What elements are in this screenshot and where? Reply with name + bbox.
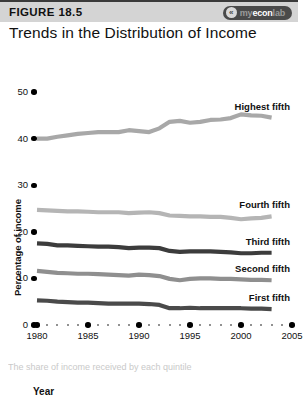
- series-label-fourth-fifth: Fourth fifth: [239, 199, 290, 210]
- series-label-second-fifth: Second fifth: [235, 263, 290, 274]
- series-line-fourth-fifth: [37, 210, 272, 219]
- figure-number: FIGURE 18.5: [9, 6, 82, 18]
- myeconlab-badge[interactable]: « myeconlab: [223, 6, 292, 20]
- series-label-third-fifth: Third fifth: [246, 236, 290, 247]
- plot-area: 01020304050198019851990199520002005Highe…: [0, 46, 298, 346]
- figure-title: Trends in the Distribution of Income: [9, 24, 257, 42]
- myeconlab-label: myeconlab: [240, 8, 285, 18]
- brand-main: econ: [252, 8, 272, 18]
- series-line-first-fifth: [37, 300, 272, 309]
- series-line-third-fifth: [37, 243, 272, 253]
- bottom-caption: The share of income received by each qui…: [8, 362, 292, 372]
- chart-container: Percentage of income Year 01020304050198…: [0, 46, 298, 346]
- series-label-highest-fifth: Highest fifth: [235, 101, 290, 112]
- series-line-highest-fifth: [37, 114, 272, 138]
- myeconlab-logo-icon: «: [226, 7, 237, 18]
- brand-prefix: my: [240, 8, 253, 18]
- figure-header-band: FIGURE 18.5 « myeconlab: [0, 0, 298, 22]
- brand-suffix: lab: [273, 8, 285, 18]
- series-label-first-fifth: First fifth: [249, 292, 290, 303]
- x-axis-title: Year: [33, 386, 54, 397]
